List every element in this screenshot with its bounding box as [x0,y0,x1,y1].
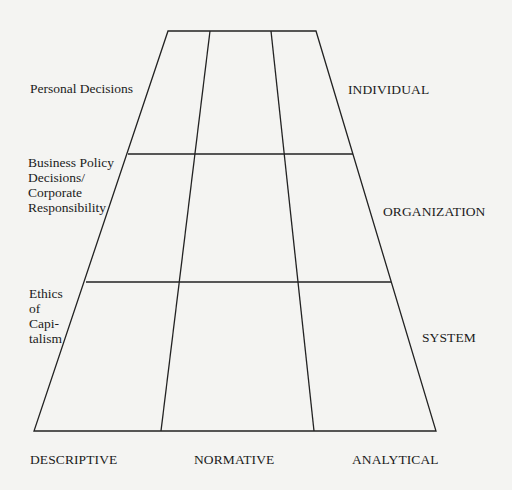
row-label-organization: ORGANIZATION [383,204,485,219]
column-divider-1 [161,31,210,431]
row-description-system: Ethics of Capi- talism [29,286,63,346]
trapezoid-grid [0,0,512,490]
row-label-individual: INDIVIDUAL [348,82,429,97]
column-divider-2 [271,31,314,431]
column-label-descriptive: DESCRIPTIVE [30,452,117,467]
row-label-system: SYSTEM [422,330,476,345]
column-label-normative: NORMATIVE [194,452,274,467]
row-description-organization: Business Policy Decisions/ Corporate Res… [28,155,114,215]
column-label-analytical: ANALYTICAL [352,452,439,467]
row-description-individual: Personal Decisions [30,81,133,96]
